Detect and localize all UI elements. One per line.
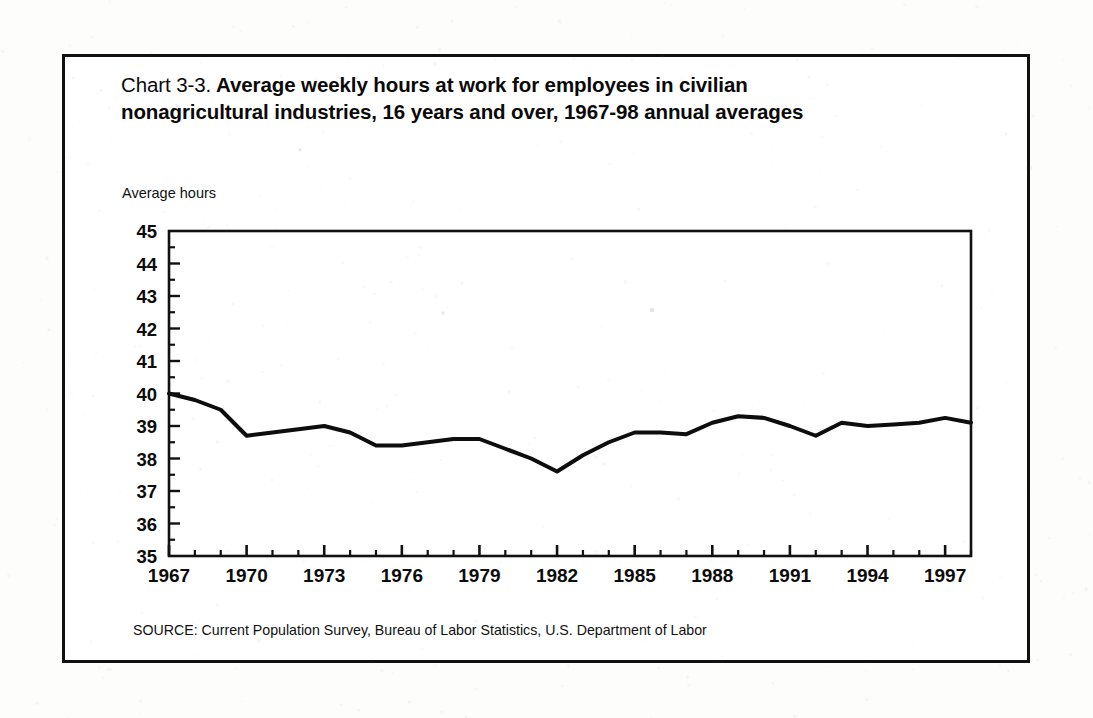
x-axis-tick-label: 1985: [614, 565, 657, 586]
x-axis-tick-label: 1991: [769, 565, 812, 586]
y-axis-tick-label: 41: [136, 351, 157, 372]
x-axis-tick-label: 1976: [381, 565, 423, 586]
y-axis-tick-label: 45: [136, 221, 157, 242]
y-axis-tick-label: 44: [136, 254, 157, 275]
y-axis-tick-label: 37: [136, 481, 157, 502]
y-axis-tick-label: 42: [136, 319, 157, 340]
x-axis-tick-label: 1967: [148, 565, 190, 586]
axes-frame: [169, 231, 971, 556]
source-note: SOURCE: Current Population Survey, Burea…: [133, 622, 707, 638]
y-axis-tick-label: 40: [136, 384, 157, 405]
x-axis-tick-label: 1997: [924, 565, 966, 586]
y-axis-tick-label: 35: [136, 546, 157, 567]
x-axis-tick-label: 1973: [303, 565, 345, 586]
x-axis-tick-label: 1988: [691, 565, 733, 586]
x-axis-tick-label: 1994: [846, 565, 889, 586]
plot-area: 4544434241403938373635196719701973197619…: [65, 57, 1033, 666]
y-axis-tick-label: 36: [136, 514, 157, 535]
x-axis-tick-label: 1982: [536, 565, 578, 586]
line-chart-svg: 4544434241403938373635196719701973197619…: [65, 57, 1033, 666]
x-axis-tick-label: 1979: [458, 565, 500, 586]
y-axis-tick-label: 38: [136, 449, 157, 470]
x-axis-tick-label: 1970: [225, 565, 267, 586]
y-axis-tick-label: 39: [136, 416, 157, 437]
y-axis-tick-label: 43: [136, 286, 157, 307]
chart-figure-box: Chart 3-3. Average weekly hours at work …: [62, 54, 1030, 663]
data-line-average-weekly-hours: [169, 394, 971, 472]
